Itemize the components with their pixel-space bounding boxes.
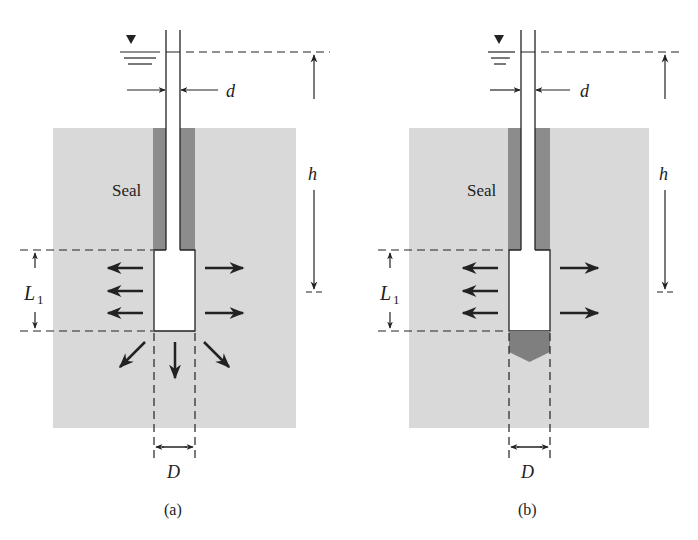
caption-a: (a): [164, 501, 182, 519]
cavity: [154, 250, 195, 331]
water-table-icon: [488, 35, 515, 64]
label-h: h: [659, 164, 668, 184]
seal-left: [508, 128, 521, 250]
panel-b: d h Seal L 1 D (b): [378, 0, 680, 519]
label-L-subscript: 1: [37, 292, 44, 307]
seal-label: Seal: [112, 181, 142, 200]
label-D: D: [520, 462, 534, 482]
label-h: h: [308, 164, 317, 184]
label-d: d: [580, 81, 590, 101]
label-D: D: [166, 462, 180, 482]
caption-b: (b): [518, 501, 537, 519]
piezometer-diagram: d h Seal L 1: [0, 0, 698, 540]
label-L: L: [23, 282, 35, 304]
standpipe: [521, 0, 535, 250]
cavity: [509, 250, 550, 331]
seal-right: [535, 128, 550, 250]
water-table-icon: [120, 35, 160, 64]
label-L: L: [379, 282, 391, 304]
seal-left: [153, 128, 166, 250]
seal-right: [180, 128, 195, 250]
standpipe: [166, 0, 180, 250]
seal-label: Seal: [467, 181, 497, 200]
label-d: d: [226, 81, 236, 101]
panel-a: d h Seal L 1: [20, 0, 330, 519]
label-L-subscript: 1: [393, 292, 400, 307]
